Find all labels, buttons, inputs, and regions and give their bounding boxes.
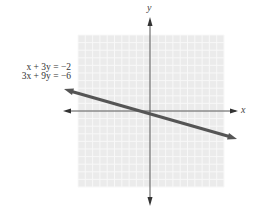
coordinate-plane bbox=[0, 0, 254, 214]
x-axis-left-arrow-icon bbox=[63, 109, 71, 114]
y-axis-up-arrow-icon bbox=[148, 17, 153, 26]
equation-labels: x + 3y = −2 3x + 9y = −6 bbox=[0, 63, 71, 81]
equation-2: 3x + 9y = −6 bbox=[0, 72, 71, 81]
line-left-arrow-icon bbox=[64, 89, 74, 96]
y-axis-down-arrow-icon bbox=[148, 197, 153, 206]
x-axis-label: x bbox=[241, 104, 245, 115]
y-axis-label: y bbox=[147, 2, 151, 13]
line-right-arrow-icon bbox=[227, 133, 237, 140]
x-axis-right-arrow-icon bbox=[230, 109, 238, 114]
